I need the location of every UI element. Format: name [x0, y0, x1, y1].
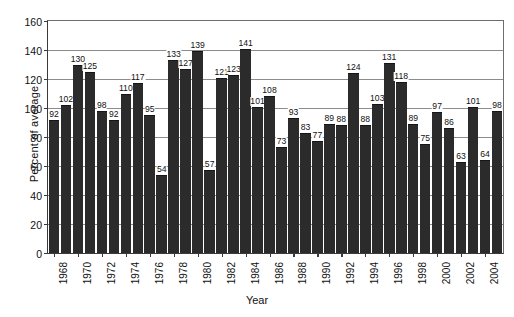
- bar: [432, 112, 443, 253]
- y-axis-tick: 40: [30, 186, 48, 204]
- bar-value-label: 93: [288, 108, 299, 117]
- x-axis-tick-mark: [174, 253, 175, 257]
- bar-group: 98: [491, 21, 503, 253]
- bar: [324, 124, 335, 253]
- bar: [264, 96, 275, 253]
- y-axis-tick: 120: [24, 70, 48, 88]
- y-axis-tick-label: 0: [36, 248, 42, 260]
- x-axis-tick-label: 1986: [274, 262, 285, 284]
- bar: [396, 82, 407, 253]
- y-axis-tick: 140: [24, 41, 48, 59]
- bar-value-label: 89: [324, 114, 335, 123]
- bar-group: 57: [204, 21, 216, 253]
- x-axis-tick-label: 1984: [250, 262, 261, 284]
- x-axis-tick-label: 1972: [106, 262, 117, 284]
- x-axis-tick-mark: [389, 253, 390, 257]
- bar: [97, 111, 108, 253]
- bar: [348, 73, 359, 253]
- bar: [384, 63, 395, 253]
- bar-group: 86: [443, 21, 455, 253]
- bar-value-label: 95: [144, 105, 155, 114]
- bar: [121, 94, 132, 254]
- y-axis-tick-label: 120: [24, 74, 42, 86]
- y-axis-tick-label: 60: [30, 161, 42, 173]
- bar-group: 73: [276, 21, 288, 253]
- x-axis-tick-label: 1974: [130, 262, 141, 284]
- x-axis-tick-mark: [150, 253, 151, 257]
- x-axis-tick-mark: [102, 253, 103, 257]
- bar-value-label: 64: [480, 150, 491, 159]
- bar-group: 83: [299, 21, 311, 253]
- x-axis-tick-mark: [485, 253, 486, 257]
- y-axis-tick-label: 20: [30, 219, 42, 231]
- bar: [456, 162, 467, 253]
- bar-value-label: 88: [336, 115, 347, 124]
- bar-value-label: 89: [408, 114, 419, 123]
- bar: [252, 107, 263, 253]
- bar-value-label: 92: [109, 110, 120, 119]
- plot-frame: 0204060801001201401609210213012598921101…: [47, 20, 504, 254]
- x-axis-tick-mark: [198, 253, 199, 257]
- bar: [312, 141, 323, 253]
- bar: [240, 49, 251, 253]
- y-axis-tick-label: 80: [30, 132, 42, 144]
- bar-group: 118: [395, 21, 407, 253]
- x-axis-tick-mark: [293, 253, 294, 257]
- bar-group: 98: [96, 21, 108, 253]
- bar: [133, 83, 144, 253]
- bar-group: 92: [48, 21, 60, 253]
- bar-value-label: 97: [432, 102, 443, 111]
- bar-value-label: 83: [300, 123, 311, 132]
- bar-group: 101: [252, 21, 264, 253]
- bar-group: 133: [168, 21, 180, 253]
- bar: [480, 160, 491, 253]
- bar-value-label: 98: [492, 101, 503, 110]
- bar-group: 63: [455, 21, 467, 253]
- x-axis-tick-label: 1990: [321, 262, 332, 284]
- y-axis-tick-label: 100: [24, 103, 42, 115]
- bar-group: 127: [180, 21, 192, 253]
- x-axis-title: Year: [0, 294, 514, 306]
- x-axis-tick-label: 1998: [417, 262, 428, 284]
- x-axis-tick-mark: [126, 253, 127, 257]
- bar: [109, 120, 120, 253]
- bar: [372, 104, 383, 253]
- bar-value-label: 77: [312, 131, 323, 140]
- bar: [336, 125, 347, 253]
- bar: [276, 147, 287, 253]
- y-axis-tick-label: 140: [24, 45, 42, 57]
- y-axis-tick: 0: [36, 244, 48, 262]
- x-axis-tick-label: 2002: [465, 262, 476, 284]
- bar: [288, 118, 299, 253]
- x-axis-tick-mark: [270, 253, 271, 257]
- y-axis-tick: 20: [30, 215, 48, 233]
- bar: [204, 170, 215, 253]
- y-axis-tick-mark: [44, 253, 48, 254]
- y-axis-tick: 80: [30, 128, 48, 146]
- bar-group: 108: [264, 21, 276, 253]
- x-axis-tick-mark: [317, 253, 318, 257]
- x-axis-tick-label: 1988: [297, 262, 308, 284]
- bar-value-label: 98: [97, 101, 108, 110]
- bar-group: 89: [407, 21, 419, 253]
- bar-group: 97: [431, 21, 443, 253]
- x-axis-tick-mark: [246, 253, 247, 257]
- bar: [61, 105, 72, 253]
- y-axis-tick: 100: [24, 99, 48, 117]
- x-axis-tick-label: 1980: [202, 262, 213, 284]
- bar-group: 88: [335, 21, 347, 253]
- x-axis-tick-mark: [54, 253, 55, 257]
- bar-value-label: 88: [360, 115, 371, 124]
- bar: [228, 75, 239, 253]
- x-axis-tick-mark: [365, 253, 366, 257]
- bar-value-label: 73: [276, 137, 287, 146]
- y-axis-tick-label: 40: [30, 190, 42, 202]
- x-axis-tick-label: 1982: [226, 262, 237, 284]
- bar-group: 92: [108, 21, 120, 253]
- plot-area: 0204060801001201401609210213012598921101…: [48, 21, 503, 253]
- bar-value-label: 54: [156, 165, 167, 174]
- bar-group: 101: [467, 21, 479, 253]
- x-axis-tick-mark: [461, 253, 462, 257]
- bar-group: 95: [144, 21, 156, 253]
- bar-group: 89: [323, 21, 335, 253]
